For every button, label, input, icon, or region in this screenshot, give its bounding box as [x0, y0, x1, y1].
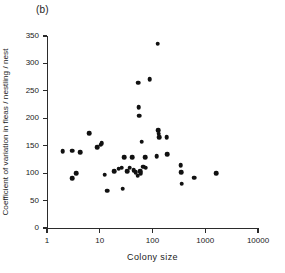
x-tick-mark — [205, 229, 206, 233]
x-tick-label: 1000 — [196, 236, 214, 245]
y-tick-mark — [43, 173, 47, 174]
data-point — [130, 155, 135, 160]
y-tick-mark — [43, 63, 47, 64]
data-point — [137, 113, 142, 118]
data-point — [87, 131, 92, 136]
data-point — [178, 163, 183, 168]
panel-label: (b) — [36, 4, 49, 15]
y-tick-mark — [43, 200, 47, 201]
data-point — [143, 165, 148, 170]
data-point — [119, 165, 124, 170]
y-tick-label: 100 — [0, 169, 39, 177]
x-tick-mark — [99, 229, 100, 233]
data-point — [147, 77, 152, 82]
data-point — [179, 170, 184, 175]
data-point — [155, 41, 160, 46]
data-point — [214, 171, 219, 176]
x-tick-label: 10000 — [247, 236, 269, 245]
data-point — [74, 171, 79, 176]
data-point — [99, 141, 104, 146]
y-tick-label: 0 — [0, 224, 39, 232]
data-point — [70, 176, 75, 181]
data-point — [157, 135, 162, 140]
data-point — [139, 171, 144, 176]
data-point — [61, 149, 66, 154]
data-point — [120, 186, 125, 191]
y-tick-mark — [43, 90, 47, 91]
y-tick-mark — [43, 118, 47, 119]
y-axis-line — [47, 36, 48, 229]
x-tick-mark — [152, 229, 153, 233]
scatter-plot-figure: (b) Coefficient of variation in fleas / … — [0, 0, 285, 273]
x-tick-label: 1 — [45, 236, 49, 245]
data-point — [105, 188, 110, 193]
y-tick-label: 50 — [0, 197, 39, 205]
y-tick-label: 300 — [0, 59, 39, 67]
data-point — [78, 150, 83, 155]
data-point — [137, 105, 142, 110]
x-tick-label: 10 — [95, 236, 104, 245]
y-tick-mark — [43, 145, 47, 146]
x-tick-mark — [46, 229, 47, 233]
data-point — [192, 175, 197, 180]
data-point — [143, 155, 148, 160]
x-axis-label: Colony size — [47, 252, 258, 262]
data-point — [103, 172, 108, 177]
y-tick-label: 350 — [0, 32, 39, 40]
data-point — [70, 148, 75, 153]
data-point — [165, 152, 170, 157]
x-tick-label: 100 — [146, 236, 159, 245]
x-tick-mark — [257, 229, 258, 233]
data-point — [122, 155, 127, 160]
data-point — [139, 140, 144, 145]
data-point — [154, 154, 159, 159]
data-point — [136, 80, 141, 85]
y-tick-label: 150 — [0, 142, 39, 150]
data-point — [179, 181, 184, 186]
data-point — [164, 135, 169, 140]
y-tick-label: 200 — [0, 114, 39, 122]
y-tick-label: 250 — [0, 87, 39, 95]
y-tick-mark — [43, 35, 47, 36]
